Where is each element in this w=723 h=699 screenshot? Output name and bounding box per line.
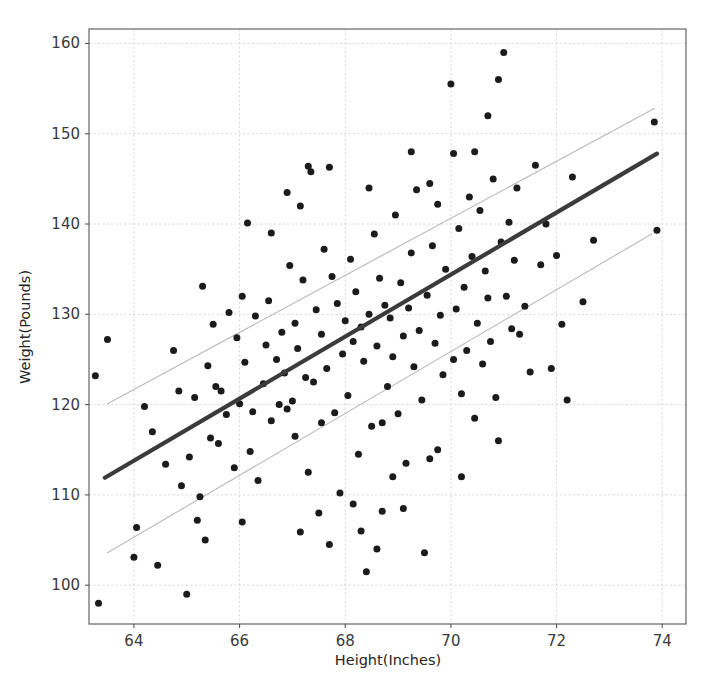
data-point [506, 219, 513, 226]
data-point [276, 401, 283, 408]
data-point [294, 345, 301, 352]
data-point [239, 518, 246, 525]
data-point [450, 150, 457, 157]
data-point [590, 237, 597, 244]
data-point [371, 230, 378, 237]
data-point [373, 342, 380, 349]
data-point [104, 336, 111, 343]
data-point [579, 298, 586, 305]
data-point [384, 383, 391, 390]
data-point [249, 408, 256, 415]
data-point [434, 201, 441, 208]
data-point [297, 202, 304, 209]
grid-lines [89, 29, 686, 624]
y-axis-tick-labels: 100110120130140150160 [51, 34, 80, 594]
data-point [363, 568, 370, 575]
data-point [432, 340, 439, 347]
data-point [141, 403, 148, 410]
data-point [389, 473, 396, 480]
chart-canvas: 646668707274 100110120130140150160 Heigh… [0, 0, 723, 699]
tick-marks [85, 43, 662, 628]
data-point [416, 327, 423, 334]
data-point [466, 193, 473, 200]
data-point [130, 554, 137, 561]
data-point [186, 453, 193, 460]
data-point [299, 277, 306, 284]
data-point [326, 164, 333, 171]
svg-text:130: 130 [51, 305, 80, 323]
data-point [241, 359, 248, 366]
x-axis-tick-labels: 646668707274 [124, 632, 671, 650]
data-point [495, 76, 502, 83]
data-point [537, 261, 544, 268]
data-point [453, 305, 460, 312]
data-point [199, 283, 206, 290]
data-point [329, 273, 336, 280]
data-point [527, 369, 534, 376]
data-point [162, 461, 169, 468]
svg-text:74: 74 [653, 632, 672, 650]
data-point [439, 371, 446, 378]
data-point [458, 473, 465, 480]
data-point [310, 379, 317, 386]
data-point [202, 537, 209, 544]
data-point [149, 428, 156, 435]
data-point [339, 351, 346, 358]
data-point [379, 419, 386, 426]
data-point [426, 455, 433, 462]
data-point [347, 256, 354, 263]
data-point [500, 49, 507, 56]
svg-text:64: 64 [124, 632, 143, 650]
data-point [471, 415, 478, 422]
data-point [408, 148, 415, 155]
data-point [511, 257, 518, 264]
data-point [318, 331, 325, 338]
data-point [273, 356, 280, 363]
data-point [368, 423, 375, 430]
data-point [154, 562, 161, 569]
data-point [376, 275, 383, 282]
data-point [284, 406, 291, 413]
data-point [426, 180, 433, 187]
data-point [450, 356, 457, 363]
data-point [183, 591, 190, 598]
data-point [408, 249, 415, 256]
data-point [492, 394, 499, 401]
data-point [268, 417, 275, 424]
data-point [387, 314, 394, 321]
data-point [191, 394, 198, 401]
data-point [532, 162, 539, 169]
data-point [503, 293, 510, 300]
data-point [653, 227, 660, 234]
data-point [413, 186, 420, 193]
data-point [461, 284, 468, 291]
data-point [471, 148, 478, 155]
data-point [175, 388, 182, 395]
data-point [553, 252, 560, 259]
data-point [313, 306, 320, 313]
data-point [476, 207, 483, 214]
data-point [405, 304, 412, 311]
svg-text:150: 150 [51, 125, 80, 143]
data-point [302, 374, 309, 381]
data-point [479, 360, 486, 367]
data-point [239, 293, 246, 300]
data-point [421, 549, 428, 556]
data-point [463, 347, 470, 354]
data-point [178, 482, 185, 489]
data-point [434, 446, 441, 453]
data-point [226, 309, 233, 316]
data-point [212, 383, 219, 390]
data-point [558, 321, 565, 328]
data-point [307, 168, 314, 175]
svg-text:110: 110 [51, 486, 80, 504]
data-point [344, 392, 351, 399]
data-point [410, 363, 417, 370]
data-point [373, 546, 380, 553]
data-point [360, 358, 367, 365]
data-point [508, 325, 515, 332]
data-point [350, 338, 357, 345]
data-point [196, 493, 203, 500]
data-point [342, 317, 349, 324]
data-point [350, 500, 357, 507]
